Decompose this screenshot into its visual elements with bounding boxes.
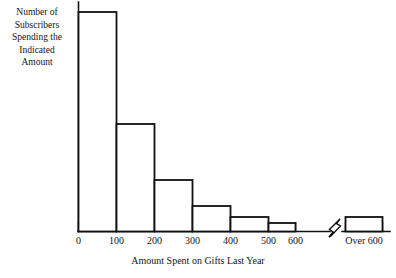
x-axis-label: Amount Spent on Gifts Last Year <box>0 255 396 266</box>
x-tick-label-500: 500 <box>261 235 276 246</box>
x-tick-label-300: 300 <box>185 235 200 246</box>
x-tick-label-100: 100 <box>109 235 124 246</box>
histogram-plot-area: 0 100 200 300 400 500 600 Over 600 <box>0 0 396 278</box>
bar-300-400 <box>193 206 231 232</box>
axis-break-icon <box>329 219 341 237</box>
x-tick-label-over-600: Over 600 <box>345 235 383 246</box>
bar-100-200 <box>117 124 155 232</box>
x-tick-label-600: 600 <box>288 235 303 246</box>
x-axis-tick-labels: 0 100 200 300 400 500 600 Over 600 <box>76 235 383 246</box>
bar-over-600 <box>346 217 383 232</box>
x-tick-label-0: 0 <box>76 235 81 246</box>
bar-200-300 <box>155 180 193 232</box>
x-tick-label-400: 400 <box>223 235 238 246</box>
histogram-figure: Number of Subscribers Spending the Indic… <box>0 0 396 278</box>
histogram-bars <box>79 12 383 232</box>
bar-500-600 <box>269 223 296 232</box>
bar-400-500 <box>231 217 269 232</box>
bar-0-100 <box>79 12 117 232</box>
x-tick-label-200: 200 <box>147 235 162 246</box>
